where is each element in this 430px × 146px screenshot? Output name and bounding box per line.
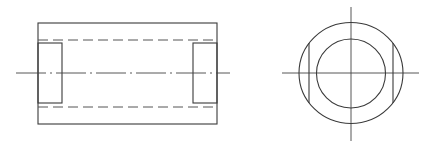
front-view bbox=[16, 23, 230, 124]
technical-drawing bbox=[0, 0, 430, 146]
front-outer-outline bbox=[38, 23, 217, 124]
side-view bbox=[282, 7, 419, 141]
